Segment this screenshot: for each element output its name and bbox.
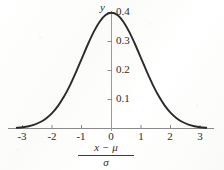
x-tick-label-3: 3 [197, 131, 203, 142]
x-axis-title: x − μ σ [78, 142, 134, 168]
x-axis-title-numerator: x − μ [78, 142, 134, 156]
y-tick-label-0.3: 0.3 [116, 35, 130, 46]
x-axis-title-denominator: σ [78, 156, 134, 169]
x-tick-label--3: -3 [17, 131, 26, 142]
y-tick-label-0.4: 0.4 [116, 6, 130, 17]
x-tick-label-2: 2 [167, 131, 173, 142]
x-tick-label--2: -2 [47, 131, 56, 142]
x-tick-label--1: -1 [76, 131, 85, 142]
y-tick-label-0.2: 0.2 [116, 64, 130, 75]
y-tick-label-0.1: 0.1 [116, 93, 130, 104]
y-axis-label: y [100, 2, 105, 13]
normal-distribution-figure: y 0.4 0.3 0.2 0.1 -3 -2 -1 0 1 2 3 x − μ… [0, 0, 224, 170]
x-tick-label-1: 1 [138, 131, 144, 142]
